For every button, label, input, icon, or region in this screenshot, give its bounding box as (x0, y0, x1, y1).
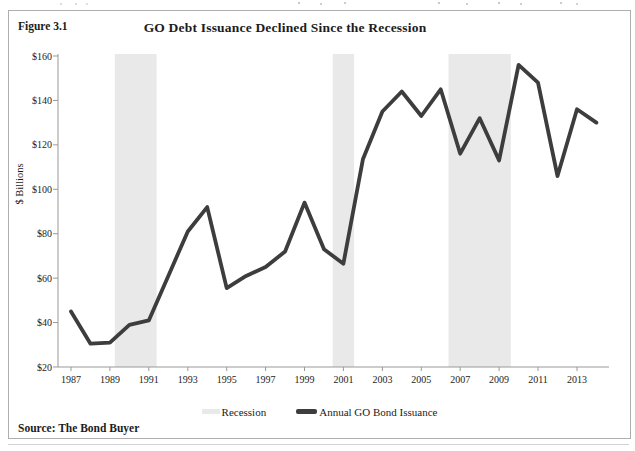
bottom-rule (8, 444, 629, 445)
issuance-line-swatch (296, 409, 317, 414)
recession-band-swatch (202, 409, 220, 414)
x-tick-label: 2005 (411, 374, 431, 385)
legend-item-issuance: Annual GO Bond Issuance (296, 406, 437, 418)
figure-page: Figure 3.1 GO Debt Issuance Declined Sin… (0, 0, 635, 451)
x-tick-label: 1997 (256, 374, 276, 385)
legend-item-recession: Recession (202, 406, 267, 418)
x-tick-label: 2013 (567, 374, 587, 385)
recession-band (449, 54, 511, 367)
y-tick-label: $160 (32, 51, 52, 62)
x-tick-label: 1995 (217, 374, 237, 385)
x-tick-label: 1987 (61, 374, 81, 385)
x-tick-label: 2009 (489, 374, 509, 385)
x-tick-label: 2007 (450, 374, 470, 385)
x-tick-label: 1999 (295, 374, 315, 385)
legend-label-recession: Recession (222, 406, 267, 418)
y-tick-label: $20 (37, 362, 52, 373)
figure-box: Figure 3.1 GO Debt Issuance Declined Sin… (8, 10, 631, 439)
recession-band (333, 54, 354, 367)
cropped-text-artifacts (0, 0, 2, 2)
y-tick-label: $60 (37, 273, 52, 284)
x-tick-label: 1991 (139, 374, 159, 385)
x-tick-label: 2011 (528, 374, 548, 385)
y-tick-label: $100 (32, 184, 52, 195)
line-chart: $160$140$120$100$80$60$40$20198719891991… (9, 11, 630, 438)
source-note: Source: The Bond Buyer (18, 422, 139, 434)
legend: Recession Annual GO Bond Issuance (9, 403, 630, 420)
y-tick-label: $140 (32, 95, 52, 106)
y-tick-label: $40 (37, 317, 52, 328)
legend-label-issuance: Annual GO Bond Issuance (319, 406, 437, 418)
x-tick-label: 1989 (100, 374, 120, 385)
y-tick-label: $120 (32, 139, 52, 150)
x-tick-label: 2001 (333, 374, 353, 385)
x-tick-label: 1993 (178, 374, 198, 385)
y-tick-label: $80 (37, 228, 52, 239)
x-tick-label: 2003 (372, 374, 392, 385)
